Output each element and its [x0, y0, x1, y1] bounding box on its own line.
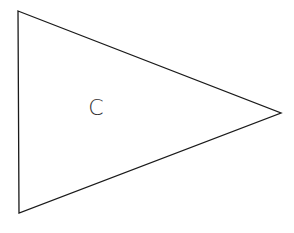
- triangle-shape: [18, 11, 281, 213]
- diagram-canvas: C: [0, 0, 294, 233]
- triangle-label: C: [88, 95, 103, 120]
